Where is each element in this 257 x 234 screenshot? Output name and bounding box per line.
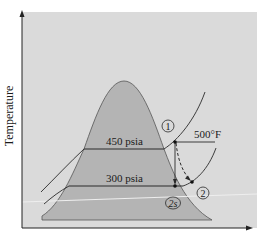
state-point-2s bbox=[173, 184, 177, 188]
state-2s-label: 2s bbox=[169, 198, 178, 209]
isobar-300-label: 300 psia bbox=[106, 172, 143, 184]
y-axis-label: Temperature bbox=[2, 86, 16, 146]
ts-diagram: 450 psia 300 psia 500°F 1 2 2s Temperatu… bbox=[0, 0, 257, 234]
state-point-1 bbox=[173, 140, 177, 144]
isobar-450-label: 450 psia bbox=[106, 135, 143, 147]
state-1-label: 1 bbox=[166, 121, 171, 132]
state-point-2 bbox=[190, 180, 194, 184]
state-2-label: 2 bbox=[201, 188, 206, 199]
isotherm-label: 500°F bbox=[194, 128, 221, 140]
